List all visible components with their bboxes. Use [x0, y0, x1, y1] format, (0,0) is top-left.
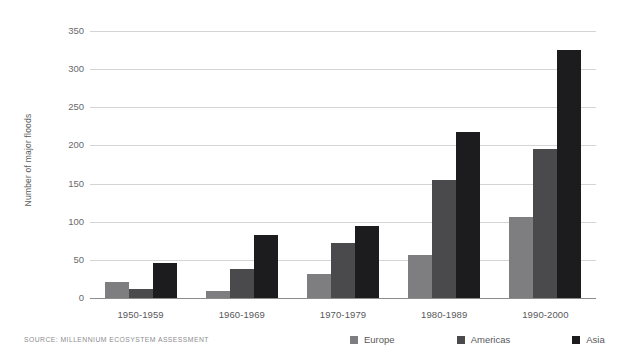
legend-swatch-icon: [350, 336, 358, 344]
chart-legend: EuropeAmericasAsia: [350, 334, 612, 345]
y-tick-label: 300: [44, 63, 84, 74]
source-note: SOURCE: MILLENNIUM ECOSYSTEM ASSESSMENT: [24, 336, 209, 343]
bar-europe: [509, 217, 533, 298]
bar-group: 1970-1979: [292, 31, 393, 298]
y-tick-label: 350: [44, 25, 84, 36]
bar-asia: [557, 50, 581, 298]
legend-item-asia[interactable]: Asia: [572, 334, 604, 345]
y-tick-label: 150: [44, 178, 84, 189]
flood-bar-chart: Number of major floods 05010015020025030…: [0, 0, 622, 360]
y-tick-label: 100: [44, 216, 84, 227]
bar-group: 1980-1989: [394, 31, 495, 298]
y-tick-label: 250: [44, 101, 84, 112]
bar-europe: [206, 291, 230, 298]
y-tick-label: 200: [44, 139, 84, 150]
legend-swatch-icon: [457, 336, 465, 344]
bar-americas: [331, 243, 355, 298]
y-tick-label: 50: [44, 254, 84, 265]
bar-asia: [355, 226, 379, 298]
legend-item-americas[interactable]: Americas: [457, 334, 511, 345]
x-tick-label: 1970-1979: [292, 309, 393, 320]
bar-group: 1990-2000: [495, 31, 596, 298]
x-tick-label: 1980-1989: [394, 309, 495, 320]
bar-americas: [230, 269, 254, 298]
plot-area: 050100150200250300350 1950-19591960-1969…: [90, 31, 596, 298]
x-tick-label: 1990-2000: [495, 309, 596, 320]
bar-group: 1960-1969: [191, 31, 292, 298]
x-axis-line: [90, 298, 596, 299]
legend-label: Americas: [471, 334, 511, 345]
legend-label: Asia: [586, 334, 604, 345]
bar-asia: [456, 132, 480, 298]
x-tick-label: 1960-1969: [191, 309, 292, 320]
bar-asia: [153, 263, 177, 298]
legend-label: Europe: [364, 334, 395, 345]
bar-asia: [254, 235, 278, 298]
legend-swatch-icon: [572, 336, 580, 344]
x-tick-label: 1950-1959: [90, 309, 191, 320]
y-axis-title: Number of major floods: [23, 60, 33, 260]
y-tick-label: 0: [44, 292, 84, 303]
bar-americas: [533, 149, 557, 298]
bar-europe: [307, 274, 331, 298]
bar-americas: [129, 289, 153, 298]
bar-groups: 1950-19591960-19691970-19791980-19891990…: [90, 31, 596, 298]
bar-group: 1950-1959: [90, 31, 191, 298]
legend-item-europe[interactable]: Europe: [350, 334, 395, 345]
bar-europe: [105, 282, 129, 298]
bar-europe: [408, 255, 432, 298]
bar-americas: [432, 180, 456, 298]
